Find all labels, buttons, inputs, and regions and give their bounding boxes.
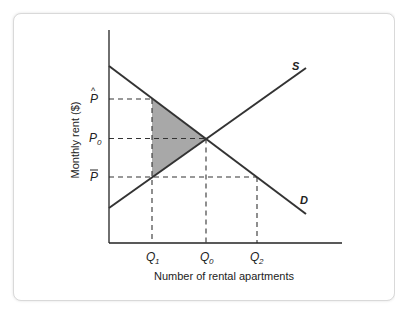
svg-text:0: 0 (97, 138, 102, 147)
demand-label: D (300, 194, 308, 206)
y-tick-p-hat: P ^ (90, 86, 98, 106)
svg-text:2: 2 (258, 257, 264, 266)
svg-text:Q: Q (200, 250, 209, 264)
supply-label: S (292, 60, 300, 72)
x-tick-q0: Q 0 (200, 250, 214, 266)
svg-text:0: 0 (209, 257, 214, 266)
x-axis-label: Number of rental apartments (154, 270, 294, 282)
svg-text:Q: Q (250, 250, 259, 264)
y-axis-label: Monthly rent ($) (69, 101, 81, 178)
deadweight-loss-area (152, 99, 206, 178)
svg-text:P: P (89, 131, 97, 145)
x-tick-q2: Q 2 (250, 250, 264, 266)
svg-text:1: 1 (155, 257, 159, 266)
svg-text:P: P (90, 170, 98, 184)
y-tick-p0: P 0 (89, 131, 102, 147)
svg-text:Q: Q (146, 250, 155, 264)
y-tick-p-bar: P (90, 170, 98, 184)
x-tick-q1: Q 1 (146, 250, 159, 266)
